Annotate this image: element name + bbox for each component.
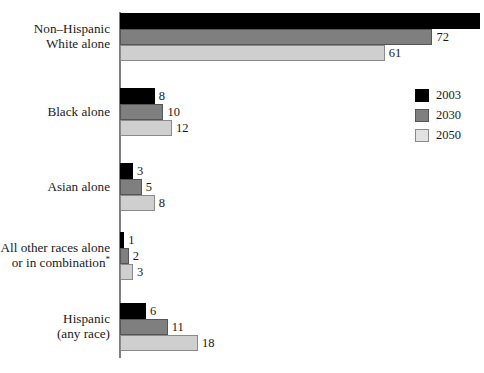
bar-row: 83	[120, 13, 480, 29]
bar-2003	[120, 303, 146, 319]
bar-value-label: 8	[159, 90, 165, 103]
bar-value-label: 61	[389, 47, 402, 60]
bar-value-label: 6	[150, 305, 156, 318]
category-label: Asian alone	[0, 179, 110, 194]
bar-row: 11	[120, 319, 168, 335]
category-label: Non–HispanicWhite alone	[0, 21, 110, 51]
legend-label: 2003	[436, 89, 461, 102]
bar-value-label: 72	[436, 31, 449, 44]
bar-row: 72	[120, 29, 432, 45]
bar-row: 8	[120, 195, 155, 211]
category-label: All other races aloneor in combination*	[0, 240, 110, 270]
bar-2030	[120, 179, 142, 195]
footnote-marker: *	[106, 254, 111, 264]
legend-item-2003: 2003	[415, 87, 461, 104]
bar-value-label: 5	[146, 181, 152, 194]
bar-value-label: 1	[128, 234, 134, 247]
legend-label: 2050	[436, 129, 461, 142]
category-label: Hispanic(any race)	[0, 311, 110, 341]
chart-page: 8372618101235812361118 Non–HispanicWhite…	[0, 0, 484, 373]
bar-value-label: 18	[202, 337, 215, 350]
bar-2030	[120, 104, 163, 120]
bar-2050	[120, 335, 198, 351]
legend-label: 2030	[436, 109, 461, 122]
bar-row: 2	[120, 248, 129, 264]
bar-row: 12	[120, 120, 172, 136]
bar-row: 61	[120, 45, 385, 61]
bar-2050	[120, 195, 155, 211]
bar-value-label: 10	[167, 106, 180, 119]
bar-2030	[120, 29, 432, 45]
bar-row: 6	[120, 303, 146, 319]
bar-value-label: 8	[159, 197, 165, 210]
bar-row: 3	[120, 163, 133, 179]
bar-chart-plot-area: 8372618101235812361118 Non–HispanicWhite…	[0, 0, 484, 373]
light-gray-swatch	[415, 129, 429, 142]
bar-2030	[120, 248, 129, 264]
bar-value-label: 3	[137, 165, 143, 178]
bar-2003	[120, 163, 133, 179]
bar-row: 18	[120, 335, 198, 351]
bar-value-label: 11	[172, 321, 184, 334]
bar-row: 1	[120, 232, 124, 248]
bar-2003	[120, 13, 480, 29]
bar-row: 10	[120, 104, 163, 120]
bar-value-label: 3	[137, 266, 143, 279]
bar-row: 3	[120, 264, 133, 280]
legend-item-2030: 2030	[415, 107, 461, 124]
bar-2050	[120, 120, 172, 136]
legend-item-2050: 2050	[415, 127, 461, 144]
black-swatch	[415, 89, 429, 102]
bar-value-label: 12	[176, 122, 189, 135]
bar-row: 8	[120, 88, 155, 104]
bar-2050	[120, 45, 385, 61]
bar-2003	[120, 88, 155, 104]
bar-2050	[120, 264, 133, 280]
chart-legend: 200320302050	[415, 87, 461, 147]
bar-value-label: 2	[133, 250, 139, 263]
category-label: Black alone	[0, 104, 110, 119]
bar-row: 5	[120, 179, 142, 195]
bar-2030	[120, 319, 168, 335]
gray-swatch	[415, 109, 429, 122]
bar-2003	[120, 232, 124, 248]
